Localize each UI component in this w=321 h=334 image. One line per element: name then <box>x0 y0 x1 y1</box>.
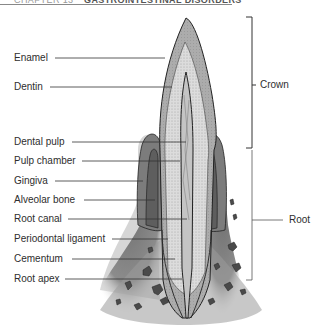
label-pulp-chamber: Pulp chamber <box>14 155 76 167</box>
label-root: Root <box>289 214 310 226</box>
label-root-canal: Root canal <box>14 213 62 225</box>
tooth <box>160 18 217 318</box>
crown-bracket <box>246 17 256 148</box>
label-root-apex: Root apex <box>14 273 60 285</box>
label-dentin: Dentin <box>14 81 43 93</box>
root-bracket <box>246 150 283 280</box>
label-dental-pulp: Dental pulp <box>14 136 65 148</box>
label-cementum: Cementum <box>14 253 63 265</box>
label-periodontal-ligament: Periodontal ligament <box>14 233 105 245</box>
label-alveolar-bone: Alveolar bone <box>14 194 75 206</box>
label-enamel: Enamel <box>14 52 48 64</box>
label-gingiva: Gingiva <box>14 175 48 187</box>
label-crown: Crown <box>260 79 289 91</box>
